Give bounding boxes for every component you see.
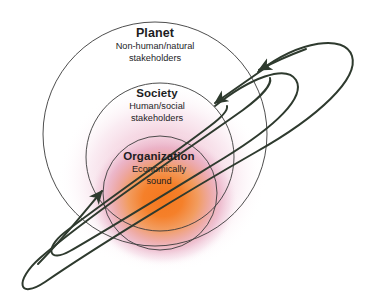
nested-spheres-svg — [0, 0, 366, 305]
diagram-canvas: Planet Non-human/natural stakeholders So… — [0, 0, 366, 305]
arrow-stroke-society — [215, 66, 268, 103]
